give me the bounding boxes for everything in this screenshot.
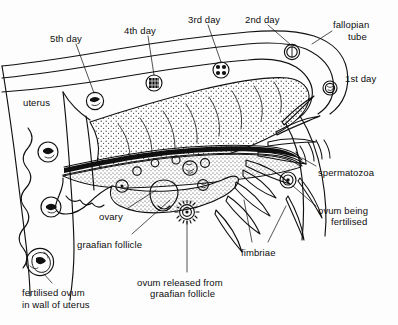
ovum-day1 — [323, 81, 337, 95]
label-ovum-released-line2: graafian follicle — [150, 288, 215, 300]
label-fallopian-tube-line2: tube — [348, 31, 367, 43]
ovum-wall-3-implanted — [26, 248, 53, 275]
label-fallopian-tube-line1: fallopian — [333, 19, 369, 31]
label-spermatozoa: spermatozoa — [318, 167, 374, 179]
label-ovum-being-fertilised-line2: fertilised — [331, 216, 367, 228]
leader-fimbriae-a — [244, 200, 252, 242]
label-fimbriae: fimbriae — [241, 247, 276, 259]
leader-2nd-day — [268, 25, 291, 45]
ovum-wall-1 — [38, 142, 58, 162]
uterus-inner-wall — [63, 92, 74, 300]
label-graafian-follicle: graafian follicle — [77, 239, 142, 251]
leader-5th-day — [76, 44, 94, 93]
ovum-wall-2 — [41, 197, 61, 217]
leader-3rd-day — [208, 25, 221, 62]
uterus-cavity-wall — [19, 128, 32, 268]
leader-fimbriae-b — [268, 206, 286, 242]
ovum-being-fertilised — [280, 172, 296, 188]
label-4th-day: 4th day — [124, 25, 156, 37]
diagram-canvas: 5th day 4th day 3rd day 2nd day fallopia… — [0, 0, 398, 325]
ovum-day4 — [146, 75, 162, 91]
label-ovum-released-line1: ovum released from — [137, 277, 223, 289]
ovum-day5 — [86, 92, 103, 109]
label-ovum-being-fertilised-line1: ovum being — [318, 205, 368, 217]
label-fertilised-ovum-line1: fertilised ovum — [22, 287, 85, 299]
label-fertilised-ovum-line2: in wall of uterus — [22, 299, 90, 311]
label-2nd-day: 2nd day — [245, 14, 280, 26]
label-uterus: uterus — [23, 97, 50, 109]
label-5th-day: 5th day — [50, 33, 82, 45]
label-3rd-day: 3rd day — [188, 14, 220, 26]
ovum-day2 — [284, 44, 299, 59]
ovum-day3 — [213, 62, 229, 78]
label-1st-day: 1st day — [345, 73, 376, 85]
label-ovary: ovary — [99, 211, 123, 223]
leader-fallopian — [312, 31, 332, 44]
leader-fertilised-ovum — [44, 274, 52, 283]
